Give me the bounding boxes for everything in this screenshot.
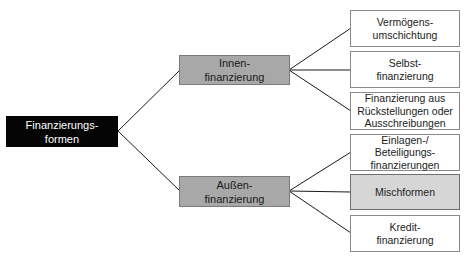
node-aussenfinanzierung: Außen- finanzierung bbox=[179, 176, 290, 207]
link-aussen-einlagen bbox=[289, 152, 351, 191]
link-innen-vermoegen bbox=[289, 28, 351, 70]
link-aussen-misch bbox=[289, 191, 351, 192]
link-innen-rueckstellungen bbox=[289, 70, 351, 111]
node-finanzierung-aus-rueckstellungen: Finanzierung aus Rückstellungen oder Aus… bbox=[350, 92, 460, 130]
link-root-innen bbox=[118, 70, 180, 131]
node-kreditfinanzierung: Kredit- finanzierung bbox=[350, 215, 460, 252]
node-finanzierungsformen: Finanzierungs- formen bbox=[6, 116, 118, 147]
node-selbstfinanzierung: Selbst- finanzierung bbox=[350, 51, 460, 88]
node-mischformen: Mischformen bbox=[350, 174, 460, 210]
node-einlagen-beteiligungsfinanzierungen: Einlagen-/ Beteiligungs- finanzierungen bbox=[350, 134, 460, 171]
node-vermoegensumschichtung: Vermögens- umschichtung bbox=[350, 10, 460, 47]
node-innenfinanzierung: Innen- finanzierung bbox=[179, 55, 290, 85]
link-root-aussen bbox=[118, 131, 180, 191]
link-aussen-kredit bbox=[289, 191, 351, 233]
